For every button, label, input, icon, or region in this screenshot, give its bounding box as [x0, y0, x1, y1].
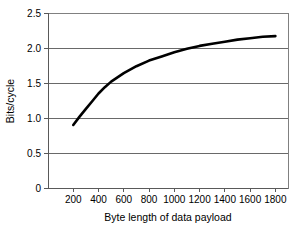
x-axis-tickmarks: [73, 188, 275, 192]
x-tick-label: 200: [65, 194, 82, 205]
x-tick-label: 1400: [214, 194, 237, 205]
x-tick-label: 1800: [264, 194, 287, 205]
x-tick-label: 600: [115, 194, 132, 205]
y-tick-label: 2.0: [27, 43, 41, 54]
y-tick-label: 2.5: [27, 8, 41, 19]
x-tick-label: 1200: [188, 194, 211, 205]
y-tick-label: 1.0: [27, 113, 41, 124]
x-tick-label: 800: [141, 194, 158, 205]
x-tick-label: 1600: [239, 194, 262, 205]
x-tick-label: 400: [90, 194, 107, 205]
y-axis-title: Bits/cycle: [4, 79, 16, 124]
x-axis-tick-labels: 20040060080010001200140016001800: [65, 194, 287, 205]
x-axis-title: Byte length of data payload: [104, 211, 231, 223]
y-tick-label: 0.5: [27, 148, 41, 159]
x-tick-label: 1000: [163, 194, 186, 205]
line-chart: 00.51.01.52.02.5 20040060080010001200140…: [0, 0, 300, 235]
y-tick-label: 1.5: [27, 78, 41, 89]
y-tick-label: 0: [35, 183, 41, 194]
y-axis-tick-labels: 00.51.01.52.02.5: [27, 8, 41, 194]
chart-figure: 00.51.01.52.02.5 20040060080010001200140…: [0, 0, 300, 235]
y-axis-tickmarks: [44, 13, 48, 188]
